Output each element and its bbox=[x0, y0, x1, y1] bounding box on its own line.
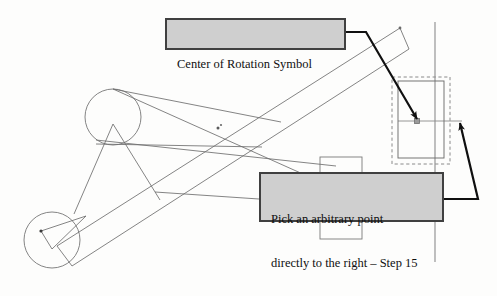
band-end-cap-bottom bbox=[57, 246, 72, 266]
band-midpoint-marker-secondary bbox=[220, 124, 222, 126]
leader-arbitrary-point bbox=[444, 123, 478, 199]
callout-center-of-rotation-line-1: Center of Rotation Symbol bbox=[177, 57, 344, 72]
lower-cross-member bbox=[155, 192, 259, 199]
lower-pulley-circle bbox=[24, 212, 80, 268]
lower-circle-pick-marker bbox=[39, 229, 42, 232]
band-end-cap-top bbox=[400, 28, 409, 49]
leader-center-of-rotation bbox=[346, 32, 417, 119]
diagram-canvas: Center of Rotation Symbol Pick an arbitr… bbox=[0, 0, 497, 296]
band-top-endpoint-marker bbox=[399, 27, 402, 30]
triangle-lower-right-edge bbox=[52, 216, 86, 249]
secondary-link-lower bbox=[96, 140, 336, 166]
part-rectangle bbox=[398, 81, 444, 158]
band-midpoint-marker bbox=[217, 127, 220, 130]
triangle-lower-apex-edge bbox=[41, 216, 86, 231]
callout-arbitrary-point-line-1: Pick an arbitrary point bbox=[271, 212, 442, 227]
center-of-rotation-symbol bbox=[415, 119, 420, 124]
triangle-lower-left-edge bbox=[41, 231, 52, 249]
callout-arbitrary-point[interactable]: Pick an arbitrary point directly to the … bbox=[259, 172, 444, 222]
callout-arbitrary-point-line-2: directly to the right – Step 15 bbox=[271, 256, 442, 271]
upper-pulley-circle bbox=[85, 89, 141, 145]
triangle-upper-right-edge bbox=[113, 124, 160, 200]
callout-center-of-rotation[interactable]: Center of Rotation Symbol bbox=[165, 18, 346, 50]
